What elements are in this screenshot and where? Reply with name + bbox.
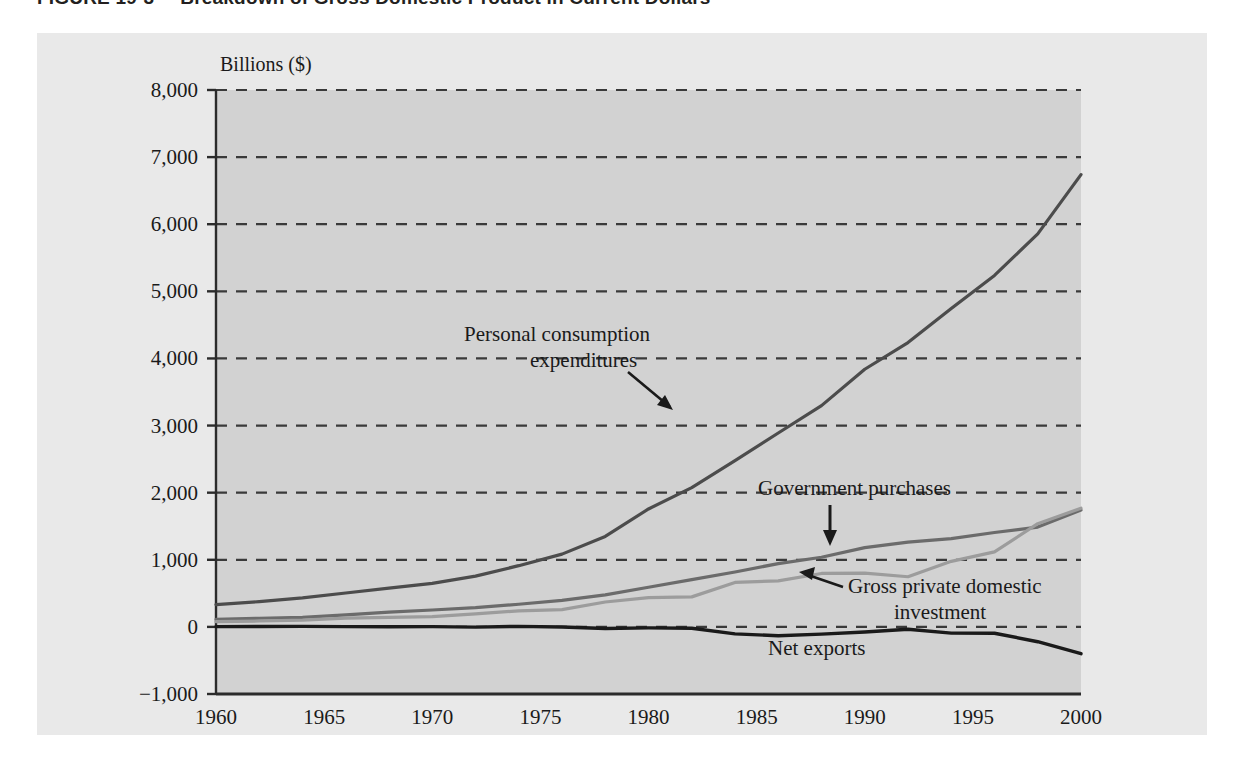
y-tick-label-3000: 3,000 [151, 414, 198, 438]
y-tick-label-2000: 2,000 [151, 481, 198, 505]
x-tick-label-1975: 1975 [519, 705, 561, 729]
annotation-personal-consumption-line2: expenditures [530, 348, 637, 372]
x-tick-label-1980: 1980 [628, 705, 670, 729]
y-tick-label-5000: 5,000 [151, 279, 198, 303]
y-tick-label-6000: 6,000 [151, 212, 198, 236]
y-tick-label-0: 0 [188, 615, 199, 639]
x-tick-labels: 196019651970197519801985199019952000 [195, 705, 1102, 729]
x-tick-label-1985: 1985 [736, 705, 778, 729]
x-tick-label-1995: 1995 [952, 705, 994, 729]
annotation-government-purchases-line1: Government purchases [758, 476, 951, 500]
x-tick-label-1990: 1990 [844, 705, 886, 729]
y-tick-marks [207, 90, 216, 694]
y-tick-labels: 8,0007,0006,0005,0004,0003,0002,0001,000… [139, 78, 198, 706]
y-axis-title: Billions ($) [220, 53, 312, 76]
x-tick-label-1970: 1970 [411, 705, 453, 729]
annotation-gpdi-line2: investment [894, 600, 986, 624]
y-tick-label--1000: −1,000 [139, 682, 198, 706]
x-tick-label-1960: 1960 [195, 705, 237, 729]
y-tick-label-1000: 1,000 [151, 548, 198, 572]
figure-title: FIGURE 19-3Breakdown of Gross Domestic P… [37, 0, 1207, 11]
y-tick-label-7000: 7,000 [151, 145, 198, 169]
figure-number: FIGURE 19-3 [37, 0, 154, 8]
annotation-net-exports-line1: Net exports [768, 636, 865, 660]
x-tick-label-2000: 2000 [1060, 705, 1102, 729]
y-tick-label-8000: 8,000 [151, 78, 198, 102]
annotation-net-exports: Net exports [768, 636, 865, 660]
annotation-personal-consumption-line1: Personal consumption [464, 322, 651, 346]
figure-title-text: Breakdown of Gross Domestic Product in C… [180, 0, 710, 8]
figure-panel: 8,0007,0006,0005,0004,0003,0002,0001,000… [37, 33, 1207, 735]
y-tick-label-4000: 4,000 [151, 346, 198, 370]
gdp-breakdown-chart: 8,0007,0006,0005,0004,0003,0002,0001,000… [37, 33, 1207, 735]
annotation-gpdi-line1: Gross private domestic [848, 574, 1042, 598]
figure-root: FIGURE 19-3Breakdown of Gross Domestic P… [0, 0, 1241, 772]
x-tick-label-1965: 1965 [303, 705, 345, 729]
